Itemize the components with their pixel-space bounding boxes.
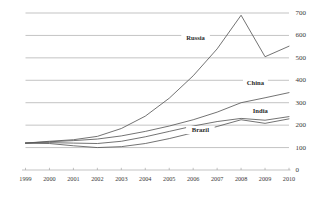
x-tick-label: 2010 [283, 175, 295, 182]
x-tick-label: 2006 [187, 175, 199, 182]
x-tick-label: 2005 [163, 175, 175, 182]
y-tick-label: 700 [296, 9, 307, 17]
y-tick-label: 400 [296, 76, 307, 84]
x-tick-label: 1999 [19, 175, 31, 182]
y-tick-label: 0 [296, 166, 300, 174]
x-tick-label: 2003 [115, 175, 127, 182]
x-tick-label: 2007 [211, 175, 223, 182]
y-tick-label: 100 [296, 144, 307, 152]
series-label-china: China [247, 79, 265, 86]
x-tick-label: 2002 [91, 175, 103, 182]
x-tick-label: 2009 [259, 175, 271, 182]
x-tick-label: 2008 [235, 175, 247, 182]
line-chart: 0100200300400500600700 19992000200120022… [0, 0, 322, 198]
y-tick-label: 200 [296, 121, 307, 129]
y-tick-label: 300 [296, 99, 307, 107]
x-tick-label: 2004 [139, 175, 151, 182]
y-tick-label: 500 [296, 54, 307, 62]
y-tick-label: 600 [296, 31, 307, 39]
x-tick-label: 2000 [43, 175, 55, 182]
series-label-india: India [253, 107, 269, 114]
series-label-russia: Russia [186, 34, 205, 41]
chart-page: 0100200300400500600700 19992000200120022… [0, 0, 322, 198]
chart-background [0, 0, 322, 198]
series-label-brazil: Brazil [192, 126, 209, 133]
x-tick-label: 2001 [67, 175, 79, 182]
